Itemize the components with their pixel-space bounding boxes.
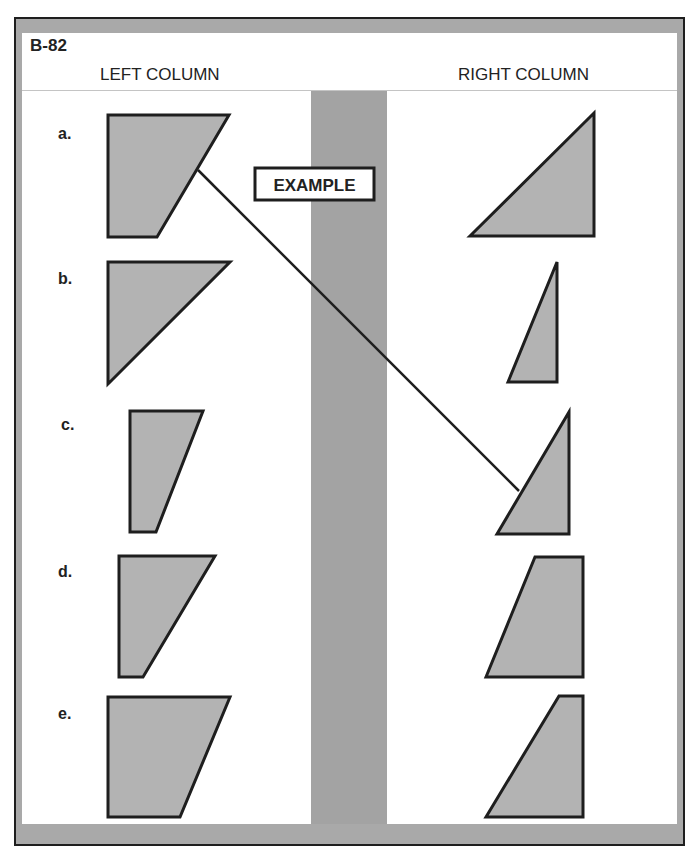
left-column-title: LEFT COLUMN <box>100 65 220 84</box>
item-label-b: b. <box>58 270 72 287</box>
item-label-e: e. <box>58 705 71 722</box>
item-label-a: a. <box>58 125 71 142</box>
item-label-d: d. <box>58 563 72 580</box>
right-column-title: RIGHT COLUMN <box>458 65 589 84</box>
worksheet-code: B-82 <box>30 36 67 55</box>
example-label: EXAMPLE <box>273 176 355 195</box>
item-label-c: c. <box>61 416 74 433</box>
worksheet-canvas: B-82 LEFT COLUMN RIGHT COLUMN a. b. c. d… <box>0 0 698 858</box>
